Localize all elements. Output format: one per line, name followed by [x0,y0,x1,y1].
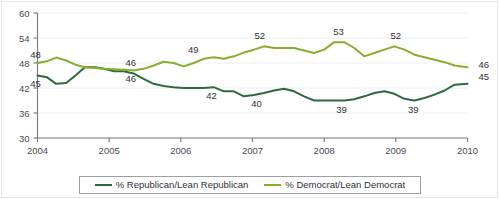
data-point-label: 46 [125,57,136,68]
y-tick-label: 36 [19,108,30,119]
series-lines-group [38,42,468,100]
legend-item-democrat[interactable]: % Democrat/Lean Democrat [264,180,405,190]
data-point-label: 39 [408,104,419,115]
gridlines-group [38,13,468,138]
legend-item-republican[interactable]: % Republican/Lean Republican [95,180,249,190]
y-tick-label: 30 [19,133,30,144]
data-point-label: 49 [188,44,199,55]
data-point-label: 52 [254,30,265,41]
data-point-label: 46 [125,73,136,84]
data-point-label: 45 [30,78,41,89]
data-point-label: 40 [251,98,262,109]
axes-group [34,13,468,142]
data-point-label: 45 [479,71,490,82]
data-point-label: 48 [30,49,41,60]
y-tick-label: 42 [19,83,30,94]
data-point-label: 53 [333,26,344,37]
x-tick-label: 2010 [457,145,478,156]
x-tick-label: 2009 [385,145,406,156]
y-tick-label: 48 [19,58,30,69]
chart-legend: % Republican/Lean Republican % Democrat/… [79,176,421,194]
y-tick-label: 60 [19,8,30,19]
data-point-label: 42 [206,90,217,101]
data-point-labels-group: 4546424039394548464952535246 [30,26,489,114]
legend-label-democrat: % Democrat/Lean Democrat [285,180,405,190]
legend-swatch-republican [95,184,112,186]
x-tick-label: 2006 [170,145,191,156]
x-tick-label: 2007 [242,145,263,156]
chart-container: 303642485460 200420052006200720082009201… [0,0,499,199]
line-chart-svg: 303642485460 200420052006200720082009201… [0,0,499,199]
data-point-label: 39 [336,104,347,115]
x-axis-tick-labels: 2004200520062007200820092010 [27,145,478,156]
series-line [38,67,468,100]
data-point-label: 52 [391,30,402,41]
legend-swatch-democrat [264,184,281,186]
x-tick-label: 2005 [99,145,120,156]
x-tick-label: 2004 [27,145,48,156]
y-axis-tick-labels: 303642485460 [19,8,30,144]
legend-label-republican: % Republican/Lean Republican [116,180,249,190]
series-line [38,42,468,70]
data-point-label: 46 [479,59,490,70]
x-tick-label: 2008 [314,145,335,156]
y-tick-label: 54 [19,33,30,44]
